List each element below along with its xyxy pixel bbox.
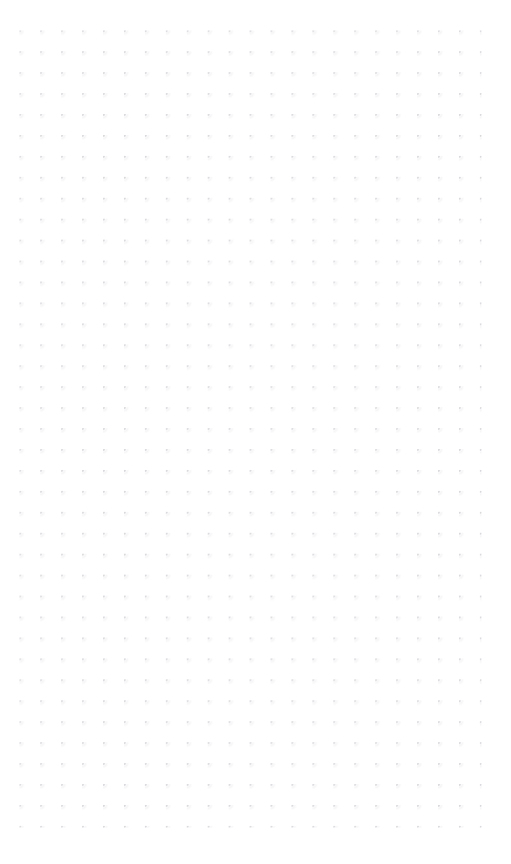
dot-grid-surface[interactable] [0,0,511,864]
dot-grid-canvas[interactable] [0,0,511,864]
